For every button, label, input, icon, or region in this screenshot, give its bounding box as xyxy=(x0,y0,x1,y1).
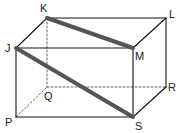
vertex-label-P: P xyxy=(5,116,12,128)
highlight-segment-KM xyxy=(47,18,133,48)
edge-SR xyxy=(133,87,166,117)
vertex-label-J: J xyxy=(5,42,11,54)
vertex-label-R: R xyxy=(168,81,176,93)
vertex-label-L: L xyxy=(169,8,175,20)
vertex-label-S: S xyxy=(135,120,142,132)
edge-LM xyxy=(133,18,166,48)
vertex-label-Q: Q xyxy=(44,90,53,102)
vertex-labels: K L J M Q R P S xyxy=(5,2,176,132)
edge-KJ xyxy=(16,18,47,48)
prism-diagram: K L J M Q R P S xyxy=(0,0,181,133)
highlight-segment-JS xyxy=(16,48,133,117)
vertex-label-M: M xyxy=(135,50,144,62)
hidden-edge-PQ xyxy=(16,87,47,117)
highlighted-segments xyxy=(16,18,133,117)
vertex-label-K: K xyxy=(40,2,48,14)
